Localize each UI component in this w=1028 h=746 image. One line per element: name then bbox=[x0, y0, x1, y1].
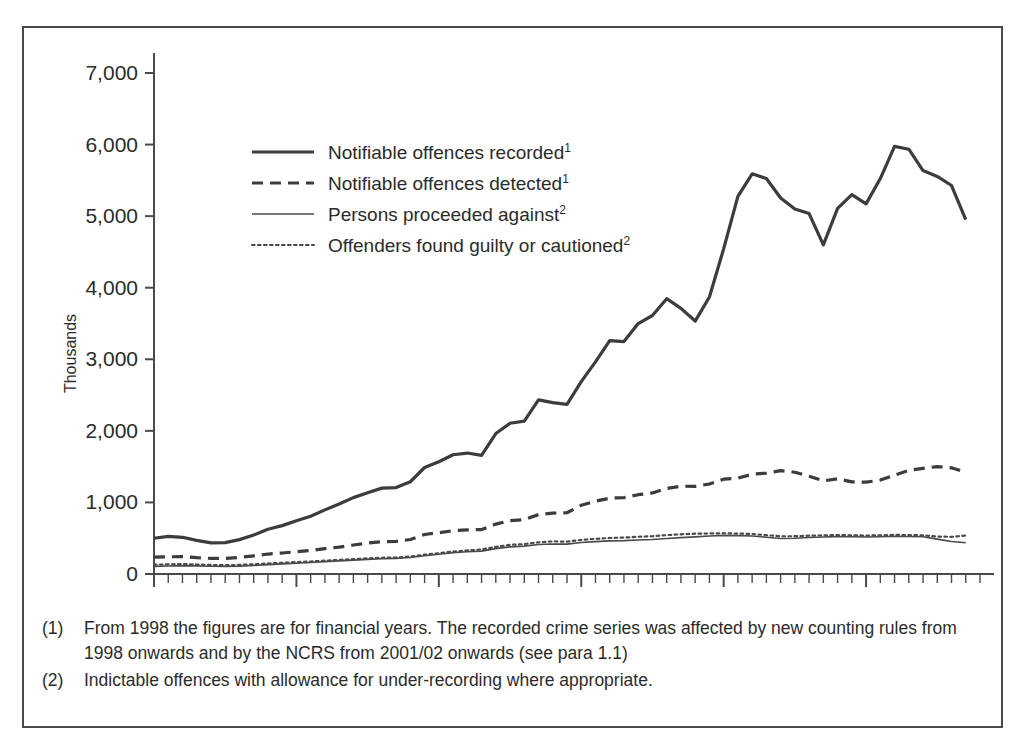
footnotes-block: (1) From 1998 the figures are for financ… bbox=[42, 616, 982, 695]
legend-footnote-marker: 1 bbox=[562, 172, 569, 186]
legend-label: Notifiable offences detected1 bbox=[328, 172, 569, 194]
y-tick-label: 5,000 bbox=[85, 204, 138, 227]
series-line bbox=[154, 533, 966, 565]
footnote-marker: (2) bbox=[42, 668, 84, 693]
y-axis-title-label: Thousands bbox=[62, 314, 79, 393]
series-line bbox=[154, 535, 966, 566]
footnote-marker: (1) bbox=[42, 616, 84, 641]
y-axis-title: Thousands bbox=[62, 314, 79, 393]
legend-footnote-marker: 1 bbox=[564, 141, 571, 155]
figure-frame: 01,0002,0003,0004,0005,0006,0007,000 195… bbox=[22, 26, 1003, 728]
x-tick-label: 2000 bbox=[843, 594, 890, 598]
x-tick-label: 1960 bbox=[273, 594, 320, 598]
legend-footnote-marker: 2 bbox=[623, 234, 630, 248]
footnote-text: Indictable offences with allowance for u… bbox=[84, 668, 982, 693]
footnote-item: (1) From 1998 the figures are for financ… bbox=[42, 616, 982, 666]
y-tick-label: 2,000 bbox=[85, 419, 138, 442]
chart-legend: Notifiable offences recorded1Notifiable … bbox=[252, 141, 630, 256]
x-axis: 195019601970198019902000 bbox=[131, 574, 994, 598]
y-tick-label: 4,000 bbox=[85, 276, 138, 299]
y-tick-label: 0 bbox=[126, 562, 138, 585]
legend-footnote-marker: 2 bbox=[559, 203, 566, 217]
footnote-text: From 1998 the figures are for financial … bbox=[84, 616, 982, 666]
x-tick-label: 1970 bbox=[415, 594, 462, 598]
x-tick-label: 1980 bbox=[558, 594, 605, 598]
y-axis: 01,0002,0003,0004,0005,0006,0007,000 bbox=[85, 53, 154, 585]
x-tick-label: 1990 bbox=[700, 594, 747, 598]
legend-label: Offenders found guilty or cautioned2 bbox=[328, 234, 630, 256]
y-tick-label: 1,000 bbox=[85, 490, 138, 513]
chart-plot-area: 01,0002,0003,0004,0005,0006,0007,000 195… bbox=[24, 28, 1001, 598]
legend-label: Persons proceeded against2 bbox=[328, 203, 566, 225]
x-tick-label: 1950 bbox=[131, 594, 178, 598]
footnote-item: (2) Indictable offences with allowance f… bbox=[42, 668, 982, 693]
y-tick-label: 6,000 bbox=[85, 133, 138, 156]
line-chart-svg: 01,0002,0003,0004,0005,0006,0007,000 195… bbox=[24, 28, 1001, 598]
y-tick-label: 7,000 bbox=[85, 61, 138, 84]
legend-label: Notifiable offences recorded1 bbox=[328, 141, 571, 163]
y-tick-label: 3,000 bbox=[85, 347, 138, 370]
